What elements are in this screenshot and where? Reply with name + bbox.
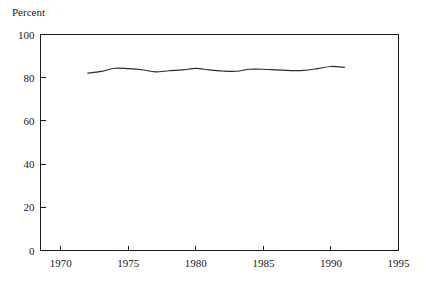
- x-tick-label: 1970: [50, 257, 73, 269]
- y-tick-label: 0: [29, 245, 35, 257]
- chart-plot-area: 020406080100 197019751980198519901995: [0, 0, 424, 284]
- y-axis-tick-labels: 020406080100: [18, 29, 35, 257]
- y-axis-ticks: [41, 35, 46, 251]
- x-tick-label: 1985: [252, 257, 275, 269]
- x-axis-ticks: [61, 246, 331, 251]
- data-series-group: [88, 66, 345, 73]
- y-tick-label: 40: [24, 158, 36, 170]
- y-tick-label: 100: [18, 29, 35, 41]
- chart-container: Percent 020406080100 1970197519801985199…: [0, 0, 424, 284]
- x-tick-label: 1990: [320, 257, 343, 269]
- x-tick-label: 1975: [117, 257, 140, 269]
- x-tick-label: 1980: [185, 257, 208, 269]
- x-axis-tick-labels: 197019751980198519901995: [50, 257, 410, 269]
- data-series-line: [88, 66, 345, 73]
- y-tick-label: 20: [24, 201, 36, 213]
- y-tick-label: 60: [24, 115, 36, 127]
- y-tick-label: 80: [24, 72, 36, 84]
- x-tick-label: 1995: [388, 257, 411, 269]
